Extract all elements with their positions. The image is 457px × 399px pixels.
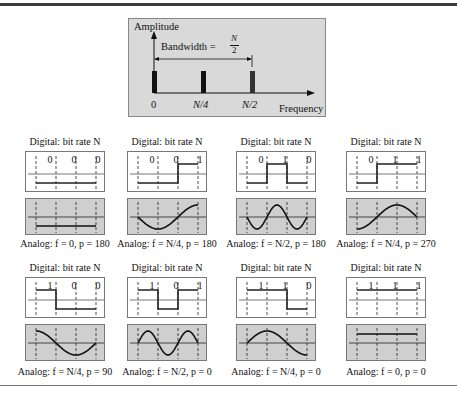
bit-value: 1 [366, 280, 376, 291]
tick-n4: N/4 [193, 99, 208, 110]
analog-caption: Analog: f = N/2, p = 180 [216, 238, 336, 249]
y-axis-label: Amplitude [134, 21, 179, 32]
bit-value: 0 [69, 154, 79, 165]
bit-value: 1 [195, 280, 205, 291]
digital-title: Digital: bit rate N [226, 136, 326, 147]
bandwidth-label: Bandwidth = [161, 41, 216, 52]
analog-signal-box [127, 198, 207, 235]
spectrum-diagram: Amplitude Bandwidth = N 2 0 N/4 N/2 Freq… [128, 18, 326, 117]
bit-value: 1 [195, 154, 205, 165]
bit-value: 0 [69, 280, 79, 291]
digital-title: Digital: bit rate N [15, 262, 115, 273]
analog-caption: Analog: f = N/4, p = 270 [326, 238, 446, 249]
bit-value: 0 [256, 154, 266, 165]
analog-signal-box [346, 198, 426, 235]
digital-signal-box: 011 [346, 151, 426, 192]
analog-caption: Analog: f = 0, p = 0 [326, 366, 446, 377]
digital-signal-box: 010 [236, 151, 316, 192]
bit-value: 1 [147, 280, 157, 291]
bit-value: 1 [280, 154, 290, 165]
bottom-rule [0, 385, 457, 386]
analog-signal-box [25, 198, 105, 235]
bandwidth-denominator: 2 [232, 45, 237, 55]
bandwidth-numerator: N [231, 33, 237, 43]
bit-value: 0 [304, 154, 314, 165]
bit-value: 0 [147, 154, 157, 165]
bit-value: 1 [256, 280, 266, 291]
bit-value: 1 [414, 280, 424, 291]
analog-signal-box [25, 324, 105, 361]
bit-value: 1 [390, 280, 400, 291]
bit-value: 1 [390, 154, 400, 165]
analog-caption: Analog: f = N/4, p = 0 [216, 366, 336, 377]
bit-value: 0 [93, 280, 103, 291]
analog-signal-box [236, 198, 316, 235]
digital-title: Digital: bit rate N [336, 136, 436, 147]
bit-value: 0 [171, 154, 181, 165]
bit-value: 0 [171, 280, 181, 291]
digital-signal-box: 100 [25, 277, 105, 318]
bit-value: 0 [45, 154, 55, 165]
digital-title: Digital: bit rate N [117, 262, 217, 273]
digital-title: Digital: bit rate N [226, 262, 326, 273]
digital-signal-box: 000 [25, 151, 105, 192]
analog-caption: Analog: f = N/2, p = 0 [107, 366, 227, 377]
digital-signal-box: 110 [236, 277, 316, 318]
digital-title: Digital: bit rate N [15, 136, 115, 147]
top-rule [0, 3, 457, 6]
bit-value: 1 [414, 154, 424, 165]
bit-value: 0 [93, 154, 103, 165]
digital-signal-box: 001 [127, 151, 207, 192]
analog-signal-box [127, 324, 207, 361]
bit-value: 1 [280, 280, 290, 291]
bit-value: 1 [45, 280, 55, 291]
digital-title: Digital: bit rate N [117, 136, 217, 147]
tick-0: 0 [151, 99, 156, 110]
tick-n2: N/2 [242, 99, 257, 110]
digital-title: Digital: bit rate N [336, 262, 436, 273]
analog-signal-box [346, 324, 426, 361]
bit-value: 0 [366, 154, 376, 165]
x-axis-label: Frequency [279, 103, 323, 114]
digital-signal-box: 111 [346, 277, 426, 318]
analog-caption: Analog: f = N/4, p = 180 [107, 238, 227, 249]
digital-signal-box: 101 [127, 277, 207, 318]
bit-value: 0 [304, 280, 314, 291]
analog-signal-box [236, 324, 316, 361]
